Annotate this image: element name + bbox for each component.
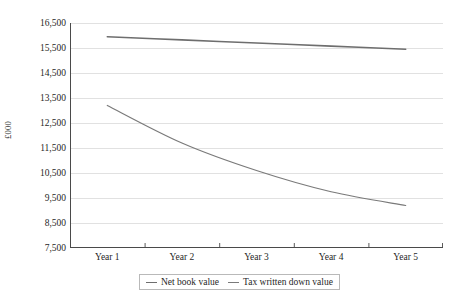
y-axis-tick-label: 7,500 (18, 243, 66, 253)
x-axis-tick-label: Year 1 (70, 251, 145, 263)
y-axis-tick-label: 16,500 (18, 18, 66, 28)
y-axis-tick-labels: 16,50015,50014,50013,50012,50011,50010,5… (14, 0, 66, 299)
x-axis-tick-labels: Year 1Year 2Year 3Year 4Year 5 (70, 251, 443, 267)
y-axis-tick-label: 13,500 (18, 93, 66, 103)
axis-lines (70, 23, 443, 248)
legend-label: Tax written down value (243, 277, 333, 288)
y-axis-tick-label: 9,500 (18, 193, 66, 203)
series-line-tax-written-down-value (107, 106, 405, 206)
y-axis-tick-label: 11,500 (18, 143, 66, 153)
plot-svg (70, 23, 443, 248)
series-lines (107, 37, 405, 206)
y-axis-tick-label: 8,500 (18, 218, 66, 228)
line-chart: £000 16,50015,50014,50013,50012,50011,50… (0, 0, 456, 299)
x-axis-tick-label: Year 4 (294, 251, 369, 263)
chart-legend: Net book valueTax written down value (139, 274, 340, 290)
legend-entry: Tax written down value (228, 277, 333, 288)
y-axis-tick-label: 14,500 (18, 68, 66, 78)
series-line-net-book-value (107, 37, 405, 50)
plot-area (70, 23, 443, 248)
legend-line-swatch-icon (228, 282, 239, 283)
x-axis-tick-label: Year 5 (368, 251, 443, 263)
legend-line-swatch-icon (146, 282, 157, 283)
y-axis-tick-label: 10,500 (18, 168, 66, 178)
gridlines (70, 24, 443, 249)
legend-entry: Net book value (146, 277, 219, 288)
y-axis-title-label: £000 (3, 121, 13, 139)
y-axis-tick-label: 12,500 (18, 118, 66, 128)
x-axis-tick-label: Year 3 (219, 251, 294, 263)
legend-label: Net book value (161, 277, 219, 288)
x-axis-tick-label: Year 2 (145, 251, 220, 263)
y-axis-tick-label: 15,500 (18, 43, 66, 53)
